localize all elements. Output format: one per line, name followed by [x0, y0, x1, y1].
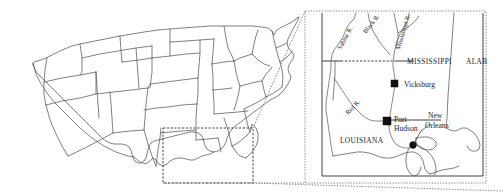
label-mississippi-river: Mississippi R. [394, 13, 411, 50]
inset-frame [305, 11, 486, 183]
gulf-coast-mississippi-sound [430, 166, 459, 174]
label-port-hudson-line2: Hudson [394, 124, 418, 133]
label-louisiana: LOUISIANA [340, 136, 384, 145]
gulf-coast-alabama [446, 128, 480, 151]
inset-connector-bottom-right [253, 183, 503, 191]
label-port-hudson-line1: Port [394, 115, 408, 124]
inset-labels: Vicksburg Port Hudson New Orleans MISSIS… [336, 12, 488, 145]
label-new-orleans-line1: New [428, 111, 443, 120]
label-alabama: ALAB [466, 57, 488, 66]
map-figure-svg: Vicksburg Port Hudson New Orleans MISSIS… [0, 0, 503, 196]
state-boundary-tx-la [333, 61, 335, 100]
red-river-path [334, 78, 385, 121]
louisiana-coastline [333, 152, 430, 174]
lake-pontchartrain-outline [416, 137, 436, 150]
label-vicksburg: Vicksburg [404, 80, 435, 89]
us-national-outline [33, 17, 299, 163]
port-hudson-marker[interactable] [383, 117, 391, 125]
overview-us-map [33, 17, 299, 166]
label-sabine-river: Sabine R. [336, 25, 354, 51]
state-boundary-ms-al [446, 13, 454, 128]
figure-root: Vicksburg Port Hudson New Orleans MISSIS… [0, 0, 503, 196]
label-new-orleans-line2: Orleans [425, 121, 449, 130]
inset-map [305, 11, 486, 183]
label-mississippi: MISSISSIPPI [407, 57, 452, 66]
vicksburg-marker[interactable] [391, 80, 398, 87]
label-black-river: Black R. [361, 12, 381, 34]
label-red-river: Red R. [344, 98, 362, 116]
sabine-river-path [326, 13, 356, 156]
